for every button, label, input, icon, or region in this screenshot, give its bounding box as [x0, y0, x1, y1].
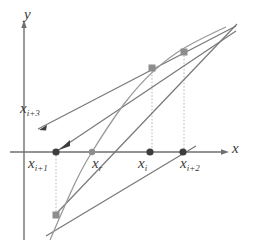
label-x-r-sub: r: [99, 163, 103, 173]
arrow-to-x-i-plus-1: [59, 140, 70, 150]
marker-f-at-x-i: [149, 65, 156, 72]
label-x-i-sub: i: [145, 163, 148, 173]
marker-f-at-x-i-plus-1: [53, 212, 60, 219]
y-axis-label: y: [24, 6, 31, 22]
function-curve-group: [50, 27, 226, 240]
curve-markers-group: [53, 49, 188, 219]
diagram-canvas: [0, 0, 253, 250]
label-x-i-plus-2-sub: i+2: [187, 163, 200, 173]
secant-line-through-x-i-plus-1: [57, 31, 236, 151]
label-x-i-plus-3: xi+3: [20, 100, 40, 116]
label-x-i: xi: [138, 155, 147, 171]
y-axis-label-base: y: [24, 6, 31, 22]
secant-line-lower-bracket: [55, 24, 237, 215]
label-x-i-plus-1: xi+1: [28, 155, 48, 171]
label-x-i-plus-1-base: x: [28, 155, 35, 171]
figure-root: y x xi+3 xi+1 xr xi xi+2: [0, 0, 253, 250]
secant-line-upper-long: [38, 26, 236, 129]
label-x-i-plus-2-base: x: [180, 155, 187, 171]
x-axis-label: x: [232, 140, 239, 156]
label-x-i-base: x: [138, 155, 145, 171]
label-x-i-plus-3-base: x: [20, 100, 27, 116]
secant-lines-group: [38, 24, 237, 236]
marker-f-at-x-i-plus-2: [181, 49, 188, 56]
secant-line-bottom-right: [46, 146, 196, 236]
label-x-i-plus-3-sub: i+3: [27, 108, 40, 118]
label-x-r: xr: [92, 155, 102, 171]
x-axis-label-base: x: [232, 140, 239, 156]
label-x-r-base: x: [92, 155, 99, 171]
label-x-i-plus-2: xi+2: [180, 155, 200, 171]
point-x-i: [146, 148, 153, 155]
x-axis-arrowhead: [221, 149, 229, 154]
drop-lines-group: [56, 52, 184, 215]
annotation-arrows-group: [39, 125, 70, 150]
label-x-i-plus-1-sub: i+1: [35, 163, 48, 173]
curve-f-of-x: [50, 27, 226, 240]
point-x-i-plus-1: [52, 148, 59, 155]
